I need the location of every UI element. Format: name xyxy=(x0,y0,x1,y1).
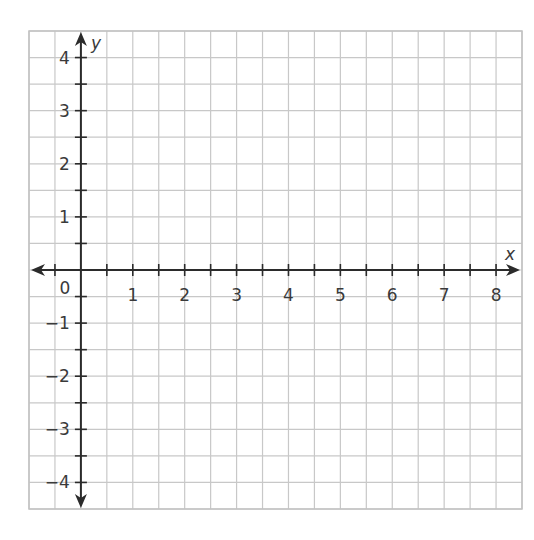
x-tick-label: 5 xyxy=(335,285,346,305)
x-tick-label: 1 xyxy=(127,285,138,305)
coordinate-plane: 123456784321−1−2−3−4 x y 0 xyxy=(0,0,534,540)
y-tick-label: −4 xyxy=(45,472,70,492)
x-tick-label: 6 xyxy=(387,285,398,305)
y-tick-label: 1 xyxy=(59,207,70,227)
y-tick-label: −3 xyxy=(45,419,70,439)
origin-label: 0 xyxy=(59,278,70,298)
y-tick-label: 2 xyxy=(59,154,70,174)
x-tick-label: 7 xyxy=(439,285,450,305)
axes xyxy=(31,32,520,508)
x-tick-label: 8 xyxy=(491,285,502,305)
y-tick-label: −2 xyxy=(45,366,70,386)
x-axis-label: x xyxy=(504,244,516,264)
x-tick-label: 2 xyxy=(179,285,190,305)
x-tick-label: 3 xyxy=(231,285,242,305)
x-tick-label: 4 xyxy=(283,285,294,305)
y-tick-label: 3 xyxy=(59,101,70,121)
y-tick-label: −1 xyxy=(45,313,70,333)
y-tick-label: 4 xyxy=(59,48,70,68)
y-axis-label: y xyxy=(90,33,102,53)
